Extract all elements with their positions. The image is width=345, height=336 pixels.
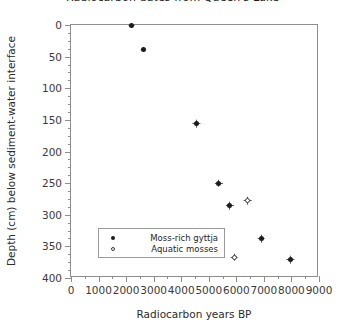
y-tick-minor — [68, 262, 71, 263]
y-tick-minor — [68, 96, 71, 97]
x-tick-minor — [195, 276, 196, 279]
x-tick-minor — [305, 276, 306, 279]
y-tick-major — [65, 57, 71, 58]
x-tick-label: 6000 — [223, 284, 250, 296]
marker-filled-circle-icon — [141, 47, 146, 52]
legend-item-label: Aquatic mosses — [127, 244, 224, 254]
x-tick-minor — [167, 276, 168, 279]
x-tick-label: 2000 — [113, 284, 140, 296]
x-tick-label: 0 — [68, 284, 75, 296]
chart-title: Radiocarbon dates from Queen's Lake — [0, 0, 345, 2]
x-tick-major — [209, 276, 210, 282]
chart-container: Radiocarbon dates from Queen's Lake Dept… — [0, 0, 345, 336]
x-tick-major — [264, 276, 265, 282]
y-tick-minor — [68, 254, 71, 255]
x-tick-major — [154, 276, 155, 282]
legend-item: Moss-rich gyttja — [99, 232, 224, 243]
y-tick-label: 50 — [49, 51, 62, 63]
y-axis-title: Depth (cm) below sediment-water interfac… — [4, 24, 18, 277]
y-tick-minor — [68, 270, 71, 271]
y-tick-minor — [68, 49, 71, 50]
y-tick-major — [65, 215, 71, 216]
marker-filled-circle-icon — [129, 23, 134, 28]
y-tick-major — [65, 246, 71, 247]
x-tick-minor — [250, 276, 251, 279]
y-tick-label: 300 — [42, 209, 62, 221]
y-tick-minor — [68, 167, 71, 168]
y-tick-major — [65, 183, 71, 184]
data-point — [290, 259, 291, 260]
x-tick-minor — [85, 276, 86, 279]
y-tick-label: 100 — [42, 82, 62, 94]
y-tick-minor — [68, 238, 71, 239]
y-tick-minor — [68, 112, 71, 113]
y-tick-major — [65, 152, 71, 153]
x-tick-major — [291, 276, 292, 282]
y-tick-major — [65, 120, 71, 121]
x-tick-minor — [140, 276, 141, 279]
y-axis-title-text: Depth (cm) below sediment-water interfac… — [5, 35, 17, 265]
marker-filled-circle-icon — [194, 121, 199, 126]
y-tick-minor — [68, 80, 71, 81]
x-axis-title: Radiocarbon years BP — [70, 308, 318, 320]
marker-filled-circle-icon — [216, 181, 221, 186]
x-tick-label: 9000 — [306, 284, 333, 296]
y-tick-major — [65, 25, 71, 26]
marker-open-circle-icon — [232, 255, 237, 260]
y-tick-minor — [68, 144, 71, 145]
y-tick-minor — [68, 33, 71, 34]
legend-item-label: Moss-rich gyttja — [127, 233, 224, 243]
x-tick-label: 3000 — [140, 284, 167, 296]
x-tick-minor — [112, 276, 113, 279]
x-tick-minor — [223, 276, 224, 279]
marker-filled-circle-icon — [259, 236, 264, 241]
marker-filled-circle-icon — [227, 203, 232, 208]
y-tick-label: 350 — [42, 240, 62, 252]
x-tick-major — [126, 276, 127, 282]
x-tick-minor — [278, 276, 279, 279]
x-tick-major — [236, 276, 237, 282]
data-point — [218, 183, 219, 184]
x-tick-label: 5000 — [195, 284, 222, 296]
data-point — [196, 123, 197, 124]
y-tick-minor — [68, 231, 71, 232]
y-tick-minor — [68, 65, 71, 66]
y-tick-label: 250 — [42, 177, 62, 189]
y-tick-minor — [68, 128, 71, 129]
x-tick-major — [319, 276, 320, 282]
y-tick-label: 200 — [42, 146, 62, 158]
data-point — [234, 257, 235, 258]
y-tick-label: 0 — [55, 19, 62, 31]
y-tick-minor — [68, 175, 71, 176]
marker-open-circle-icon — [245, 198, 250, 203]
marker-filled-circle-icon — [288, 257, 293, 262]
data-point — [131, 25, 132, 26]
data-point — [261, 238, 262, 239]
data-point — [247, 200, 248, 201]
y-tick-minor — [68, 136, 71, 137]
legend-marker-open-circle-icon — [99, 243, 127, 254]
chart-legend: Moss-rich gyttjaAquatic mosses — [98, 228, 225, 258]
y-tick-minor — [68, 104, 71, 105]
x-tick-major — [181, 276, 182, 282]
y-tick-minor — [68, 199, 71, 200]
y-tick-minor — [68, 191, 71, 192]
x-tick-label: 8000 — [278, 284, 305, 296]
x-tick-label: 4000 — [168, 284, 195, 296]
y-tick-minor — [68, 159, 71, 160]
y-tick-minor — [68, 72, 71, 73]
y-tick-minor — [68, 41, 71, 42]
data-point — [143, 49, 144, 50]
y-tick-label: 400 — [42, 272, 62, 284]
legend-marker-filled-circle-icon — [99, 232, 127, 243]
x-tick-label: 7000 — [251, 284, 278, 296]
x-tick-major — [99, 276, 100, 282]
y-tick-minor — [68, 223, 71, 224]
x-tick-major — [71, 276, 72, 282]
x-tick-label: 1000 — [85, 284, 112, 296]
legend-item: Aquatic mosses — [99, 243, 224, 254]
y-tick-minor — [68, 207, 71, 208]
y-tick-label: 150 — [42, 114, 62, 126]
y-tick-major — [65, 88, 71, 89]
data-point — [229, 205, 230, 206]
